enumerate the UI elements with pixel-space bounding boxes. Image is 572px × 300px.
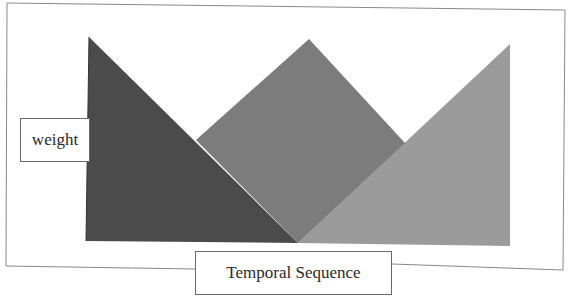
y-axis-label: weight (20, 118, 90, 162)
x-axis-label-text: Temporal Sequence (226, 263, 360, 283)
x-axis-label: Temporal Sequence (195, 251, 392, 295)
y-axis-label-text: weight (32, 130, 78, 150)
